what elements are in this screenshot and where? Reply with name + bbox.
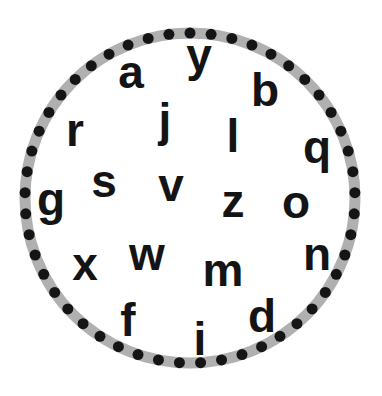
ring-dot <box>104 49 115 60</box>
ring-dot <box>349 187 360 198</box>
ring-dot <box>256 341 267 352</box>
letter-o: o <box>282 176 310 228</box>
letter-n: n <box>303 228 331 280</box>
letter-s: s <box>91 155 117 207</box>
ring-dot <box>307 303 318 314</box>
ring-dot <box>62 303 73 314</box>
ring-dot <box>22 166 33 177</box>
ring-dot <box>56 90 67 101</box>
ring-dot <box>153 354 164 365</box>
ring-dot <box>326 107 337 118</box>
ring-dot <box>26 146 37 157</box>
letter-f: f <box>120 294 136 346</box>
ring-dot <box>339 249 350 260</box>
letter-l: l <box>227 110 240 162</box>
ring-dot <box>216 354 227 365</box>
ring-dot <box>345 229 356 240</box>
ring-dot <box>335 126 346 137</box>
ring-dot <box>246 40 257 51</box>
letter-b: b <box>251 64 279 116</box>
letter-m: m <box>203 244 244 296</box>
ring-dot <box>299 74 310 85</box>
ring-dot <box>94 331 105 342</box>
ring-dot <box>143 33 154 44</box>
ring-dot <box>320 287 331 298</box>
ring-dot <box>343 146 354 157</box>
letter-g: g <box>37 173 65 225</box>
letter-r: r <box>66 104 84 156</box>
letter-j: j <box>158 94 172 146</box>
ring-dot <box>38 269 49 280</box>
ring-dot <box>70 74 81 85</box>
ring-dot <box>291 318 302 329</box>
ring-dot <box>43 107 54 118</box>
letter-y: y <box>186 29 212 81</box>
letter-v: v <box>158 159 184 211</box>
letter-a: a <box>118 46 144 98</box>
ring-dot <box>331 269 342 280</box>
ring-dot <box>34 126 45 137</box>
letter-circle-worksheet: aybjlrqsvgzoxwnmfdi <box>0 0 382 396</box>
letter-x: x <box>72 238 98 290</box>
ring-dot <box>349 208 360 219</box>
ring-dot <box>86 60 97 71</box>
ring-dot <box>20 208 31 219</box>
letter-z: z <box>222 175 245 227</box>
ring-dot <box>265 49 276 60</box>
ring-dot <box>275 331 286 342</box>
letter-q: q <box>303 121 331 173</box>
ring-dot <box>133 349 144 360</box>
ring-dot <box>49 287 60 298</box>
ring-dot <box>163 29 174 40</box>
letter-i: i <box>194 313 207 365</box>
ring-dot <box>20 187 31 198</box>
letter-w: w <box>128 228 165 280</box>
ring-dot <box>30 249 41 260</box>
ring-dot <box>347 166 358 177</box>
ring-dot <box>24 229 35 240</box>
ring-dot <box>236 349 247 360</box>
ring-dot <box>226 33 237 44</box>
ring-dot <box>174 357 185 368</box>
ring-dot <box>283 60 294 71</box>
ring-dot <box>314 90 325 101</box>
letter-d: d <box>248 290 276 342</box>
ring-dot <box>78 318 89 329</box>
